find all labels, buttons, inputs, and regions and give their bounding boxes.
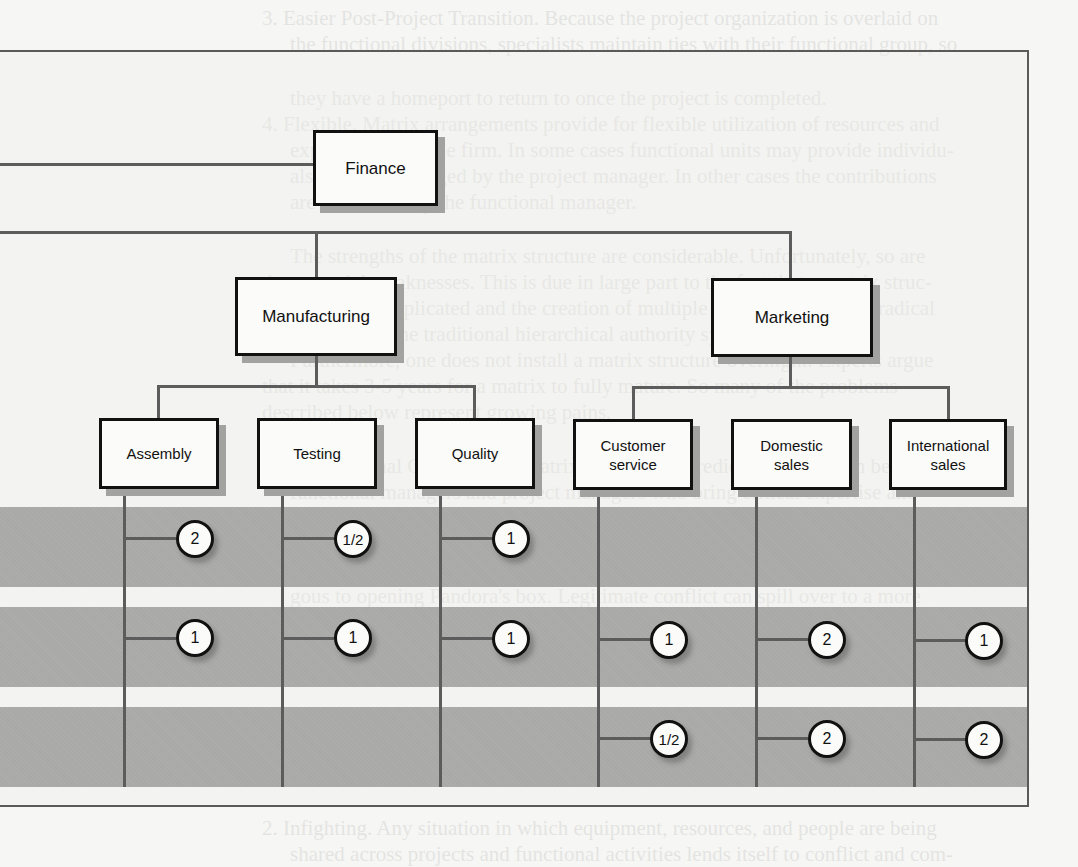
tick — [124, 637, 176, 640]
allocation-circle: 1 — [650, 621, 688, 659]
tick — [440, 637, 492, 640]
stem-marketing — [789, 231, 792, 279]
allocation-circle: 2 — [808, 720, 846, 758]
domestic-sales-box: Domestic sales — [731, 419, 852, 490]
division-connector — [0, 231, 792, 234]
tick — [756, 638, 808, 641]
connector-to-finance — [0, 163, 313, 166]
allocation-circle: 1 — [176, 619, 214, 657]
finance-box: Finance — [313, 130, 438, 206]
project-band-3 — [0, 707, 1027, 787]
allocation-circle: 2 — [965, 721, 1003, 759]
bleed-line: shared across projects and functional ac… — [290, 842, 953, 867]
stem-marketing-down — [789, 357, 792, 387]
allocation-circle: 1 — [492, 620, 530, 658]
allocation-circle: 1 — [965, 622, 1003, 660]
assembly-box: Assembly — [99, 418, 219, 489]
finance-label: Finance — [345, 159, 405, 178]
allocation-circle: 2 — [808, 621, 846, 659]
stem-customer-service — [632, 386, 635, 419]
quality-label: Quality — [452, 444, 499, 463]
marketing-box: Marketing — [711, 278, 873, 357]
testing-box: Testing — [257, 418, 377, 489]
international-sales-box: International sales — [889, 419, 1007, 490]
tick — [282, 537, 334, 540]
manufacturing-label: Manufacturing — [262, 307, 370, 326]
allocation-circle: 1 — [334, 619, 372, 657]
stem-assembly — [157, 385, 160, 418]
domestic-sales-label: Domestic sales — [760, 436, 823, 474]
tick — [124, 537, 176, 540]
international-sales-label: International sales — [907, 436, 990, 474]
marketing-unit-bar — [632, 386, 950, 389]
testing-label: Testing — [293, 444, 341, 463]
bleed-line: 3. Easier Post-Project Transition. Becau… — [262, 6, 938, 31]
customer-service-box: Customer service — [573, 419, 693, 490]
quality-box: Quality — [415, 418, 535, 489]
international-sales-line — [913, 489, 916, 787]
assembly-label: Assembly — [126, 444, 191, 463]
tick — [914, 738, 966, 741]
tick — [598, 737, 650, 740]
allocation-circle: 1 — [492, 520, 530, 558]
tick — [914, 639, 966, 642]
bleed-line: 2. Infighting. Any situation in which eq… — [262, 816, 937, 841]
stem-manufacturing-down — [315, 356, 318, 387]
customer-service-label: Customer service — [600, 436, 665, 474]
manufacturing-box: Manufacturing — [235, 277, 397, 356]
tick — [282, 637, 334, 640]
marketing-label: Marketing — [755, 308, 830, 327]
allocation-circle: 2 — [176, 520, 214, 558]
allocation-circle: 1/2 — [650, 720, 688, 758]
allocation-circle: 1/2 — [334, 520, 372, 558]
tick — [598, 638, 650, 641]
stem-international-sales — [947, 386, 950, 419]
stem-manufacturing — [315, 231, 318, 278]
tick — [440, 537, 492, 540]
tick — [756, 737, 808, 740]
manufacturing-unit-bar — [157, 385, 475, 388]
stem-quality — [473, 385, 476, 418]
